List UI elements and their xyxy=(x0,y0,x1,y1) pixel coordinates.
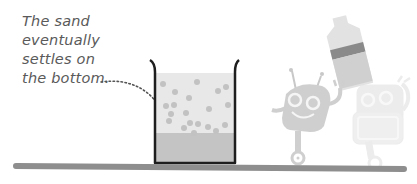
bottle xyxy=(323,13,373,91)
robot-front xyxy=(272,68,344,164)
illustration xyxy=(0,0,417,184)
beaker xyxy=(150,60,239,163)
robot-back xyxy=(353,76,410,169)
floor xyxy=(16,166,404,169)
sand-layer xyxy=(155,133,235,163)
